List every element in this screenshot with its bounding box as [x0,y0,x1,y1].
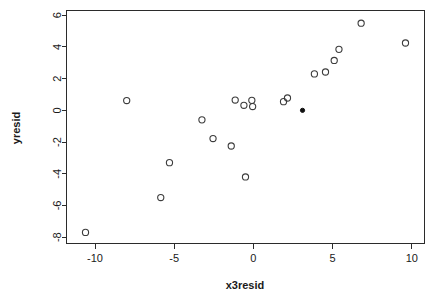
y-axis-label: yresid [10,112,22,144]
x-tick-label: 5 [330,252,336,264]
y-tick-label: 6 [51,12,63,18]
y-tick-label: -4 [51,169,63,179]
figure-background [0,0,435,299]
scatter-plot-figure: -10-50510 6420-2-4-6-8 x3resid yresid [0,0,435,299]
y-tick-label: 2 [51,76,63,82]
x-axis-label: x3resid [226,279,265,291]
y-tick-label: 4 [51,44,63,50]
y-tick-label: -6 [51,201,63,211]
x-tick-label: 0 [250,252,256,264]
y-tick-label: 0 [51,107,63,113]
plot-canvas: -10-50510 6420-2-4-6-8 x3resid yresid [0,0,435,299]
y-tick-label: -2 [51,137,63,147]
x-tick-label: 10 [406,252,418,264]
y-tick-label: -8 [51,232,63,242]
x-tick-label: -5 [169,252,179,264]
data-point-filled [300,108,304,112]
x-tick-label: -10 [87,252,103,264]
